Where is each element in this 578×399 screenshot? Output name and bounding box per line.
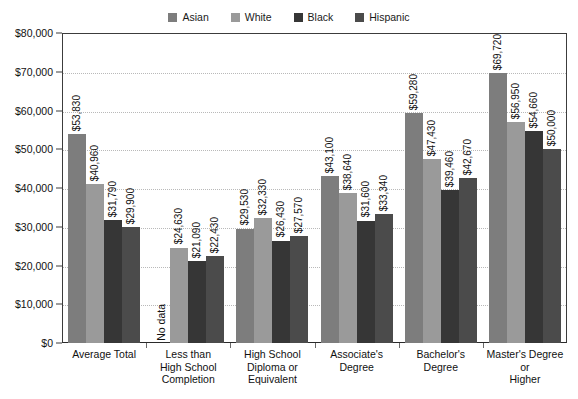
bar-black[interactable]: $31,790 — [104, 33, 122, 343]
bar-value-label: $38,640 — [343, 154, 353, 190]
bar-rect — [290, 236, 308, 343]
legend-label: Black — [308, 12, 334, 23]
bar-value-label: $69,720 — [493, 34, 503, 70]
x-axis-label-line: High School — [232, 348, 312, 361]
x-axis-label-line: Associate's — [317, 348, 397, 361]
bar-value-label: $33,340 — [379, 175, 389, 211]
bar-group: $53,830$40,960$31,790$29,900 — [62, 33, 146, 343]
bar-value-label: $22,430 — [210, 217, 220, 253]
bar-rect — [543, 149, 561, 343]
bar-asian[interactable]: $53,830 — [68, 33, 86, 343]
x-axis-label-line: Average Total — [64, 348, 144, 361]
legend-label: White — [245, 12, 272, 23]
bar-value-label: $43,100 — [325, 137, 335, 173]
bar-white[interactable]: $38,640 — [339, 33, 357, 343]
bar-value-label: $50,000 — [547, 110, 557, 146]
bar-white[interactable]: $24,630 — [170, 33, 188, 343]
x-axis-label: High SchoolDiploma orEquivalent — [230, 348, 314, 399]
bar-value-label: $56,950 — [511, 83, 521, 119]
bar-hispanic[interactable]: $33,340 — [375, 33, 393, 343]
bar-rect — [236, 229, 254, 343]
bar-group-bars: $29,530$32,330$26,430$27,570 — [230, 33, 314, 343]
bar-value-label: $53,830 — [72, 95, 82, 131]
y-tick-label: $20,000 — [15, 260, 53, 271]
legend-swatch-icon — [168, 13, 177, 22]
x-axis-label-line: Less than — [148, 348, 228, 361]
bar-group-bars: $43,100$38,640$31,600$33,340 — [315, 33, 399, 343]
bar-value-label: $31,790 — [108, 181, 118, 217]
y-tick-label: $70,000 — [15, 67, 53, 78]
bar-group: No data$24,630$21,090$22,430 — [146, 33, 230, 343]
bar-rect — [188, 261, 206, 343]
x-axis-label-line: Diploma or — [232, 361, 312, 374]
bar-hispanic[interactable]: $50,000 — [543, 33, 561, 343]
bar-black[interactable]: $54,660 — [525, 33, 543, 343]
bar-value-label: $39,460 — [445, 151, 455, 187]
x-axis-label-line: Higher — [485, 373, 565, 386]
legend-swatch-icon — [355, 13, 364, 22]
bar-hispanic[interactable]: $22,430 — [206, 33, 224, 343]
bar-rect — [405, 113, 423, 343]
bar-hispanic[interactable]: $29,900 — [122, 33, 140, 343]
bar-asian[interactable]: $29,530 — [236, 33, 254, 343]
bar-rect — [272, 241, 290, 343]
bar-value-label: $29,900 — [126, 188, 136, 224]
bar-white[interactable]: $40,960 — [86, 33, 104, 343]
bar-group-bars: No data$24,630$21,090$22,430 — [146, 33, 230, 343]
bar-black[interactable]: $31,600 — [357, 33, 375, 343]
bar-hispanic[interactable]: $42,670 — [459, 33, 477, 343]
bar-rect — [375, 214, 393, 343]
y-tick-label: $0 — [41, 338, 53, 349]
legend-item-hispanic[interactable]: Hispanic — [355, 12, 409, 23]
y-axis: $0$10,000$20,000$30,000$40,000$50,000$60… — [0, 33, 62, 343]
bar-black[interactable]: $26,430 — [272, 33, 290, 343]
x-axis-label-line: or — [485, 361, 565, 374]
bar-rect — [423, 159, 441, 343]
bar-groups: $53,830$40,960$31,790$29,900No data$24,6… — [62, 33, 567, 343]
bar-rect — [254, 218, 272, 343]
y-tick-label: $80,000 — [15, 28, 53, 39]
bar-hispanic[interactable]: $27,570 — [290, 33, 308, 343]
bar-value-label: $26,430 — [276, 201, 286, 237]
x-axis-label-line: Completion — [148, 373, 228, 386]
bar-value-label: $32,330 — [258, 179, 268, 215]
bar-rect — [339, 193, 357, 343]
bar-asian[interactable]: $43,100 — [321, 33, 339, 343]
y-tick-label: $40,000 — [15, 183, 53, 194]
no-data-label: No data — [156, 304, 167, 341]
bar-asian[interactable]: $69,720 — [489, 33, 507, 343]
bar-asian[interactable]: No data — [152, 33, 170, 343]
legend-item-asian[interactable]: Asian — [168, 12, 208, 23]
bar-group-bars: $69,720$56,950$54,660$50,000 — [483, 33, 567, 343]
bar-rect — [459, 178, 477, 343]
x-axis-label: Less thanHigh SchoolCompletion — [146, 348, 230, 399]
bar-group: $29,530$32,330$26,430$27,570 — [230, 33, 314, 343]
bar-black[interactable]: $39,460 — [441, 33, 459, 343]
bar-rect — [86, 184, 104, 343]
bar-group: $69,720$56,950$54,660$50,000 — [483, 33, 567, 343]
x-axis-label: Average Total — [62, 348, 146, 399]
legend-swatch-icon — [231, 13, 240, 22]
legend-item-black[interactable]: Black — [294, 12, 334, 23]
bar-value-label: $47,430 — [427, 120, 437, 156]
y-tick-label: $60,000 — [15, 105, 53, 116]
bar-chart: AsianWhiteBlackHispanic $0$10,000$20,000… — [0, 0, 578, 399]
bar-rect — [206, 256, 224, 343]
bar-white[interactable]: $56,950 — [507, 33, 525, 343]
y-tick-label: $50,000 — [15, 144, 53, 155]
legend-item-white[interactable]: White — [231, 12, 272, 23]
bar-white[interactable]: $32,330 — [254, 33, 272, 343]
x-axis-label-line: High School — [148, 361, 228, 374]
bar-white[interactable]: $47,430 — [423, 33, 441, 343]
legend-swatch-icon — [294, 13, 303, 22]
bar-rect — [489, 73, 507, 343]
bar-asian[interactable]: $59,280 — [405, 33, 423, 343]
bar-rect — [68, 134, 86, 343]
bar-rect — [321, 176, 339, 343]
bar-group: $43,100$38,640$31,600$33,340 — [315, 33, 399, 343]
bar-rect — [122, 227, 140, 343]
x-axis-label: Master's DegreeorHigher — [483, 348, 567, 399]
bar-value-label: $29,530 — [240, 189, 250, 225]
bar-black[interactable]: $21,090 — [188, 33, 206, 343]
bar-value-label: $42,670 — [463, 139, 473, 175]
